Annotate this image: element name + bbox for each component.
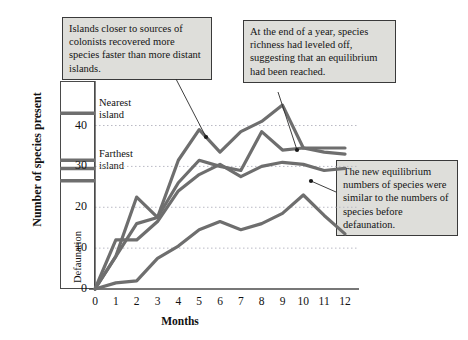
x-tick-label: 3 bbox=[150, 295, 166, 307]
y-tick-label: 0 bbox=[65, 281, 87, 296]
x-tick-label: 10 bbox=[295, 295, 311, 307]
x-tick-label: 7 bbox=[233, 295, 249, 307]
annotation-callout-right: At the end of a year, species richness h… bbox=[243, 20, 396, 83]
x-tick-label: 11 bbox=[316, 295, 332, 307]
annotation-callout-lower-right: The new equilibrium numbers of species w… bbox=[336, 160, 458, 236]
x-tick-label: 4 bbox=[170, 295, 186, 307]
series-label-nearest-line2: island bbox=[99, 109, 124, 121]
y-tick-label: 40 bbox=[65, 118, 87, 133]
defaunation-label: Defaunation bbox=[72, 231, 83, 283]
axis-lines bbox=[89, 81, 359, 289]
x-tick-label: 0 bbox=[87, 295, 103, 307]
annotation-leader-lines bbox=[176, 79, 336, 192]
annotation-callout-left: Islands closer to sources of colonists r… bbox=[62, 17, 212, 80]
x-axis-title: Months bbox=[0, 315, 360, 327]
series-label-farthest-line1: Farthest bbox=[99, 148, 133, 160]
x-tick-label: 6 bbox=[212, 295, 228, 307]
x-tick-label: 12 bbox=[337, 295, 353, 307]
annotation-right-text: At the end of a year, species richness h… bbox=[250, 25, 389, 78]
y-tick-label: 20 bbox=[65, 199, 87, 214]
x-tick-label: 2 bbox=[129, 295, 145, 307]
y-axis-title: Number of species present bbox=[30, 75, 45, 245]
chart-figure: Islands closer to sources of colonists r… bbox=[0, 0, 468, 340]
x-tick-label: 8 bbox=[254, 295, 270, 307]
x-tick-label: 1 bbox=[108, 295, 124, 307]
x-tick-label: 9 bbox=[275, 295, 291, 307]
series-label-farthest-line2: island bbox=[99, 160, 124, 172]
y-tick-label: 30 bbox=[65, 158, 87, 173]
series-lines bbox=[95, 105, 345, 289]
y-tick-label: 10 bbox=[65, 240, 87, 255]
gridlines bbox=[95, 126, 357, 249]
annotation-left-text: Islands closer to sources of colonists r… bbox=[69, 22, 205, 75]
x-tick-label: 5 bbox=[191, 295, 207, 307]
annotation-lower-text: The new equilibrium numbers of species w… bbox=[343, 165, 451, 231]
series-label-nearest-line1: Nearest bbox=[99, 97, 131, 109]
